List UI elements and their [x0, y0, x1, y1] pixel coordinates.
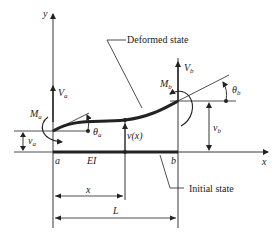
beam-diagram: y Va x Vb θa Ma va a EI b v(x) Mb θb vb: [0, 0, 280, 238]
ei-label: EI: [86, 155, 97, 166]
mb-moment-top: [170, 91, 189, 96]
node-b-label: b: [171, 155, 176, 166]
deformed-curve: [53, 101, 178, 131]
vb-label: Vb: [184, 62, 194, 75]
ma-label: Ma: [29, 108, 42, 121]
theta-b-label: θb: [232, 84, 241, 97]
vx-dot-bottom: [123, 150, 127, 154]
x-dim-label: x: [85, 184, 91, 195]
va-dim-label: va: [28, 135, 36, 148]
theta-a-dot: [86, 129, 90, 133]
y-axis-label: y: [42, 8, 48, 19]
node-a-label: a: [55, 155, 60, 166]
x-axis-label: x: [261, 156, 267, 167]
vx-label: v(x): [127, 130, 143, 142]
diagram-canvas: y Va x Vb θa Ma va a EI b v(x) Mb θb vb: [0, 0, 280, 238]
vx-dot-top: [123, 118, 127, 122]
deformed-state-leader: [107, 40, 142, 108]
l-dim-label: L: [112, 205, 119, 216]
vb-dim-label: vb: [213, 122, 221, 135]
theta-b-arc: [223, 82, 227, 101]
mb-label: Mb: [159, 78, 172, 91]
theta-b-dot: [224, 99, 228, 103]
initial-state-label: Initial state: [189, 183, 234, 194]
va-label: Va: [58, 87, 68, 100]
mb-moment-arrow: [181, 96, 192, 126]
theta-a-label: θa: [93, 126, 102, 139]
tangent-b: [178, 75, 229, 101]
deformed-state-label: Deformed state: [127, 34, 189, 45]
